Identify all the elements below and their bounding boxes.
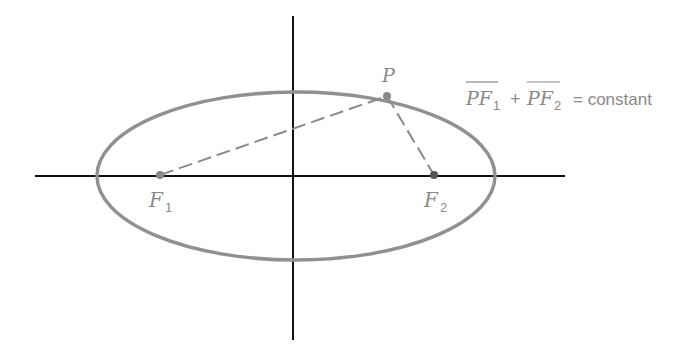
label-f1: F1 (148, 188, 172, 215)
equation-term-2: PF2 (526, 87, 561, 113)
focus-1-point (156, 171, 164, 179)
equation: PF1 + PF2 = constant (465, 82, 652, 113)
focus-2-point (430, 171, 438, 179)
equation-rhs: = constant (573, 90, 652, 109)
equation-plus: + (510, 89, 521, 109)
label-p: P (381, 64, 396, 86)
segment-pf1 (160, 96, 387, 175)
point-p (383, 92, 391, 100)
ellipse-diagram: P F1 F2 PF1 + PF2 = constant (0, 0, 695, 355)
label-f2: F2 (423, 188, 447, 215)
equation-term-1: PF1 (465, 87, 500, 113)
